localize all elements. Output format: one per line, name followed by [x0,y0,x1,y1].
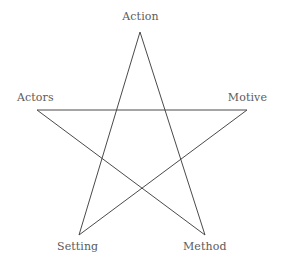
vertex-label-actors: Actors [17,91,54,104]
pentagram-diagram: Action Actors Motive Setting Method [0,0,281,271]
vertex-label-motive: Motive [228,91,267,104]
vertex-label-action: Action [0,10,281,23]
pentagram-star-shape [0,0,281,271]
vertex-label-method: Method [183,240,227,253]
vertex-label-setting: Setting [57,240,98,253]
star-outline-path [37,32,247,235]
